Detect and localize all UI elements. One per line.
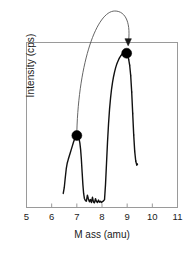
x-tick-label-10: 10: [144, 211, 160, 222]
left-peak-marker: [72, 131, 82, 141]
plot-frame-rect: [27, 43, 178, 208]
spectrum-trace-path: [63, 53, 137, 203]
x-tick-label-7: 7: [69, 211, 85, 222]
arrow-curve: [77, 11, 129, 132]
plot-frame: [27, 43, 178, 208]
trace-noise: [126, 52, 138, 165]
x-axis-label: M ass (amu): [26, 229, 178, 240]
right-peak-marker: [122, 48, 132, 58]
x-tick-label-8: 8: [94, 211, 110, 222]
peak-markers: [72, 48, 132, 140]
y-axis-label: Intensity (cps): [25, 0, 36, 141]
x-axis-ticks: [27, 204, 178, 208]
x-tick-label-5: 5: [19, 211, 35, 222]
x-tick-label-6: 6: [44, 211, 60, 222]
curved-transition-arrow: [77, 11, 132, 132]
x-tick-label-11: 11: [170, 211, 186, 222]
mass-spectrum-figure: Intensity (cps) 567891011 M ass (amu): [0, 0, 192, 258]
x-tick-label-9: 9: [119, 211, 135, 222]
spectrum-trace: [63, 52, 137, 203]
